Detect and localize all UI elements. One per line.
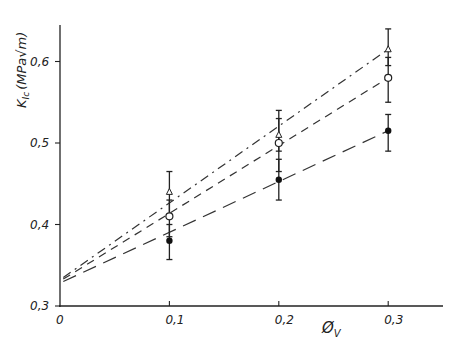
markers <box>166 46 392 244</box>
y-tick-label: 0,5 <box>30 136 49 150</box>
x-tick-label: 0,2 <box>275 313 294 327</box>
x-tick-label: 0,1 <box>165 313 184 327</box>
fit-line <box>63 78 388 279</box>
x-axis-label: ØV <box>321 319 342 339</box>
fit-lines <box>63 49 388 281</box>
triangle-marker <box>276 131 282 137</box>
y-tick-label: 0,6 <box>30 55 49 69</box>
y-tick-label: 0,4 <box>30 218 49 232</box>
filled-circle-marker <box>166 238 172 244</box>
fit-line <box>63 131 388 282</box>
tick-labels: 00,10,20,30,30,40,50,6 <box>30 55 403 328</box>
triangle-marker <box>385 46 391 52</box>
open-circle-marker <box>275 140 282 147</box>
y-axis-label: KIc(MPa√m) <box>14 32 31 108</box>
y-tick-label: 0,3 <box>30 299 49 313</box>
axes <box>59 25 443 307</box>
x-tick-label: 0 <box>56 313 64 327</box>
chart: 00,10,20,30,30,40,50,6 KIc(MPa√m) ØV <box>0 0 454 345</box>
svg-text:ØV: ØV <box>321 319 342 339</box>
svg-text:KIc(MPa√m): KIc(MPa√m) <box>14 32 31 108</box>
filled-circle-marker <box>385 128 391 134</box>
fit-line <box>63 49 388 277</box>
ticks <box>55 62 388 307</box>
open-circle-marker <box>166 213 173 220</box>
triangle-marker <box>166 188 172 194</box>
open-circle-marker <box>385 74 392 81</box>
filled-circle-marker <box>276 176 282 182</box>
x-tick-label: 0,3 <box>384 313 403 327</box>
